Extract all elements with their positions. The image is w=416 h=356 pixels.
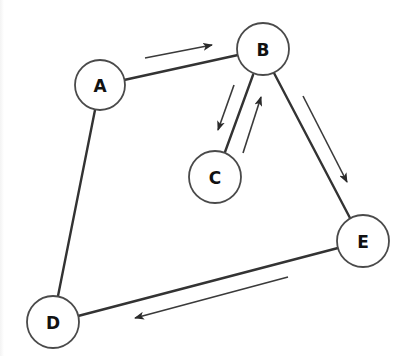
arrow-a-to-b-icon bbox=[145, 45, 212, 58]
node-c: C bbox=[189, 151, 241, 203]
node-a: A bbox=[75, 60, 125, 110]
edge-b-e bbox=[274, 73, 350, 218]
arrow-e-to-d-icon bbox=[135, 277, 288, 318]
edge-a-d bbox=[58, 110, 95, 296]
edge-a-b bbox=[124, 55, 238, 80]
graph-diagram: A B C D E bbox=[0, 0, 416, 356]
node-b: B bbox=[237, 23, 289, 75]
edge-e-d bbox=[78, 248, 338, 316]
arrow-b-to-c-icon bbox=[218, 85, 234, 130]
edge-b-c bbox=[225, 75, 253, 152]
node-d-label: D bbox=[46, 313, 60, 333]
node-a-label: A bbox=[93, 76, 107, 96]
node-d: D bbox=[27, 296, 79, 348]
node-e-label: E bbox=[357, 232, 369, 252]
node-e: E bbox=[337, 215, 389, 267]
arrow-c-to-b-icon bbox=[243, 97, 261, 153]
node-b-label: B bbox=[257, 40, 270, 60]
node-c-label: C bbox=[209, 168, 221, 188]
